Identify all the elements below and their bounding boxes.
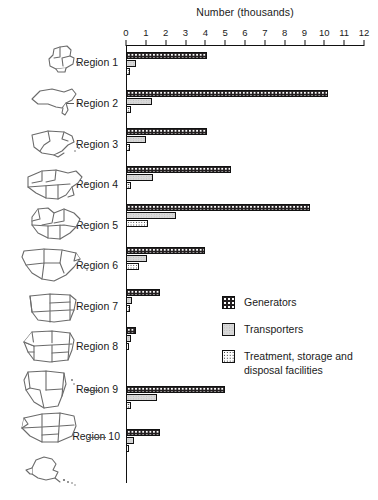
bar-region-10-generators [126, 429, 160, 436]
x-tick-label-3: 3 [183, 27, 188, 38]
transporters-swatch-icon [222, 323, 235, 336]
bar-region-9-tsd [126, 402, 131, 409]
region-map-column [0, 0, 122, 500]
mid-atlantic-map [28, 127, 94, 161]
legend-item-generators: Generators [222, 296, 374, 310]
x-tick-label-9: 9 [302, 27, 307, 38]
bar-region-3-tsd [126, 144, 130, 151]
bar-region-7-transporters [126, 297, 132, 304]
x-tick-label-0: 0 [123, 27, 128, 38]
legend: Generators Transporters Treatment, stora… [222, 296, 374, 390]
legend-label-tsd: Treatment, storage and disposal faciliti… [244, 350, 374, 377]
pacific-southwest-map [18, 368, 84, 412]
bar-region-9-generators [126, 386, 225, 393]
x-tick-label-6: 6 [242, 27, 247, 38]
south-central-map [20, 245, 96, 287]
bar-region-10-tsd [126, 445, 129, 452]
legend-item-tsd: Treatment, storage and disposal faciliti… [222, 350, 374, 377]
x-tick-label-10: 10 [319, 27, 330, 38]
legend-item-transporters: Transporters [222, 323, 374, 337]
bar-region-4-generators [126, 166, 231, 173]
bar-region-6-transporters [126, 255, 147, 262]
bar-region-5-generators [126, 204, 310, 211]
new-england-map [40, 45, 92, 75]
bar-region-1-tsd [126, 68, 130, 75]
tsd-swatch-icon [222, 350, 235, 363]
plot-area [126, 46, 364, 483]
bar-region-2-generators [126, 90, 328, 97]
great-lakes-map [24, 205, 96, 245]
bar-region-5-transporters [126, 212, 176, 219]
x-tick-label-1: 1 [143, 27, 148, 38]
pacific-northwest-map [18, 410, 90, 448]
alaska-map [22, 452, 84, 490]
bar-region-2-tsd [126, 106, 131, 113]
southeast-map [22, 167, 98, 205]
hazardous-waste-region-bar-chart: Number (thousands) 0123456789101112 Regi… [0, 0, 378, 500]
bar-region-8-generators [126, 327, 136, 334]
x-tick-label-4: 4 [203, 27, 208, 38]
bar-region-6-generators [126, 247, 205, 254]
x-tick-label-5: 5 [223, 27, 228, 38]
bar-region-1-transporters [126, 60, 136, 67]
bar-region-10-transporters [126, 437, 134, 444]
bar-region-3-generators [126, 128, 207, 135]
bar-region-8-transporters [126, 335, 131, 342]
legend-label-transporters: Transporters [244, 323, 374, 337]
x-tick-label-2: 2 [163, 27, 168, 38]
bar-region-2-transporters [126, 98, 152, 105]
generators-swatch-icon [222, 296, 235, 309]
bar-region-6-tsd [126, 263, 139, 270]
bar-region-7-tsd [126, 305, 130, 312]
bar-region-9-transporters [126, 394, 157, 401]
legend-label-generators: Generators [244, 296, 374, 310]
bar-region-4-tsd [126, 182, 131, 189]
bar-region-7-generators [126, 289, 160, 296]
bar-region-3-transporters [126, 136, 146, 143]
x-tick-label-12: 12 [359, 27, 370, 38]
x-axis-tick-labels: 0123456789101112 [126, 27, 364, 39]
midwest-map [26, 290, 92, 326]
new-york-new-jersey-map [26, 86, 92, 118]
x-tick-label-8: 8 [282, 27, 287, 38]
bar-region-5-tsd [126, 220, 148, 227]
mountain-map [18, 328, 90, 370]
bar-region-4-transporters [126, 174, 153, 181]
chart-axis-title: Number (thousands) [126, 6, 364, 18]
bar-region-8-tsd [126, 343, 129, 350]
x-tick-label-7: 7 [262, 27, 267, 38]
x-tick-label-11: 11 [339, 27, 349, 38]
bar-region-1-generators [126, 52, 207, 59]
